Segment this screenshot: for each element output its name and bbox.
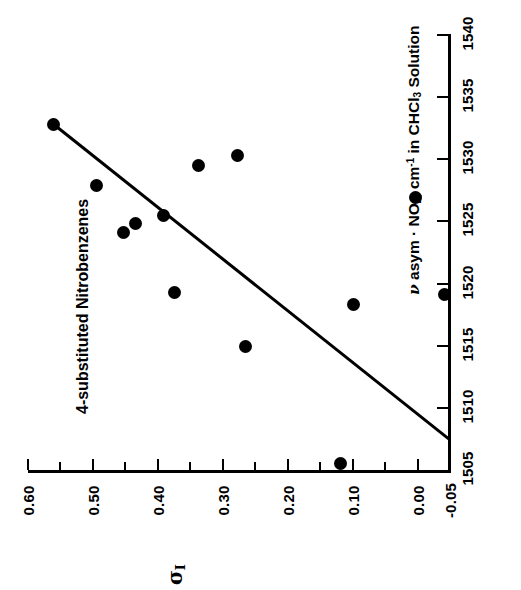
nu-tick-major [437, 283, 448, 285]
sigma-tick-major [449, 459, 451, 470]
y-axis-label: σI [163, 564, 188, 585]
nu-tick-label: 1535 [459, 73, 476, 119]
nu-tick-major [437, 345, 448, 347]
data-point [117, 226, 130, 239]
data-point [239, 340, 252, 353]
nu-tick-label: 1515 [459, 321, 476, 367]
sigma-i-axis-line [28, 470, 451, 473]
x-axis-label: ν asym · NO2, cm-1 in CHCl3 Solution [404, 0, 423, 295]
nu-tick-label: 1540 [459, 11, 476, 57]
sigma-tick-major [157, 459, 159, 470]
sigma-tick-minor [189, 462, 191, 470]
chcl3-subscript: 3 [412, 92, 423, 98]
sigma-tick-major [222, 459, 224, 470]
scatter-plot-figure: -0.050.000.100.200.300.400.500.60 150515… [0, 0, 521, 590]
nu-tick-label: 1525 [459, 197, 476, 243]
plot-title: 4-substituted Nitrobenzenes [74, 199, 92, 414]
nu-tick-major [437, 34, 448, 36]
nu-tick-major [437, 158, 448, 160]
sigma-tick-label: 0.20 [279, 478, 296, 524]
sigma-tick-label: 0.40 [149, 478, 166, 524]
trend-line [51, 122, 449, 439]
data-point [192, 159, 205, 172]
sigma-tick-minor [319, 462, 321, 470]
sigma-symbol: σ [163, 570, 187, 585]
x-label-seg-2: , cm [405, 167, 422, 198]
data-point [129, 217, 142, 230]
nu-tick-label: 1530 [459, 135, 476, 181]
sigma-tick-label: -0.05 [442, 478, 459, 524]
data-point [47, 118, 60, 131]
nu-tick-major [437, 407, 448, 409]
cm-superscript: -1 [405, 158, 416, 167]
sigma-tick-major [92, 459, 94, 470]
sigma-tick-label: 0.60 [20, 478, 37, 524]
x-label-seg-4: Solution [405, 26, 422, 92]
x-label-seg-1: asym · NO [405, 203, 422, 284]
data-point [168, 286, 181, 299]
nu-axis-line [448, 34, 451, 473]
data-point [90, 179, 103, 192]
data-point [231, 149, 244, 162]
sigma-tick-major [27, 459, 29, 470]
nu-tick-label: 1510 [459, 383, 476, 429]
sigma-tick-label: 0.50 [84, 478, 101, 524]
sigma-tick-major [287, 459, 289, 470]
nu-symbol: ν [404, 284, 423, 295]
nu-tick-label: 1505 [459, 446, 476, 492]
sigma-tick-label: 0.30 [214, 478, 231, 524]
sigma-tick-minor [59, 462, 61, 470]
sigma-tick-major [352, 459, 354, 470]
sigma-tick-label: 0.10 [344, 478, 361, 524]
sigma-subscript-i: I [173, 564, 188, 570]
sigma-tick-minor [124, 462, 126, 470]
data-point [347, 298, 360, 311]
nu-tick-label: 1520 [459, 259, 476, 305]
sigma-tick-minor [384, 462, 386, 470]
sigma-tick-label: 0.00 [409, 478, 426, 524]
nu-tick-major [437, 96, 448, 98]
data-point [157, 209, 170, 222]
sigma-tick-minor [254, 462, 256, 470]
data-point [334, 457, 347, 470]
x-label-seg-3: in CHCl [405, 97, 422, 157]
sigma-tick-major [417, 459, 419, 470]
no2-subscript: 2 [412, 198, 423, 204]
nu-tick-major [437, 220, 448, 222]
